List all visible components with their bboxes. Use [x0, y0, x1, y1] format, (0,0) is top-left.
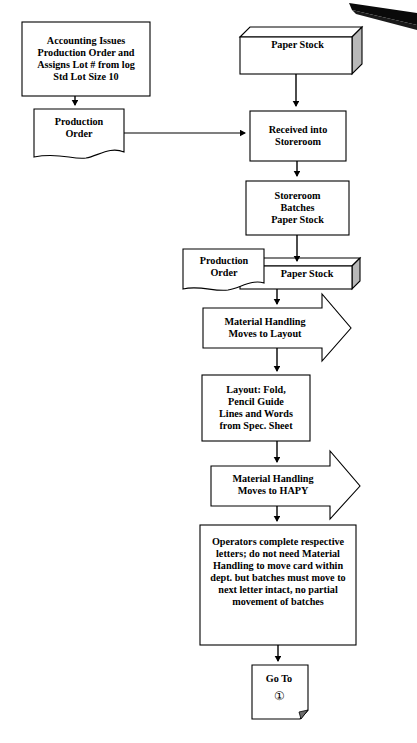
scan-artifact-black-wedge — [349, 3, 417, 30]
node-received-into-storeroom — [250, 111, 346, 161]
node-storeroom-batches — [246, 181, 349, 235]
node-layout-fold — [202, 375, 310, 441]
flowchart-canvas: Accounting Issues Production Order and A… — [0, 0, 417, 743]
node-production-order-1 — [34, 109, 124, 158]
node-paper-stock-1 — [240, 27, 362, 74]
flowchart-graphics — [0, 0, 417, 743]
node-accounting-issues — [22, 22, 150, 96]
node-go-to — [252, 665, 308, 719]
node-operators-complete-letters — [200, 525, 356, 645]
node-material-handling-moves-to-hapy — [211, 451, 360, 519]
